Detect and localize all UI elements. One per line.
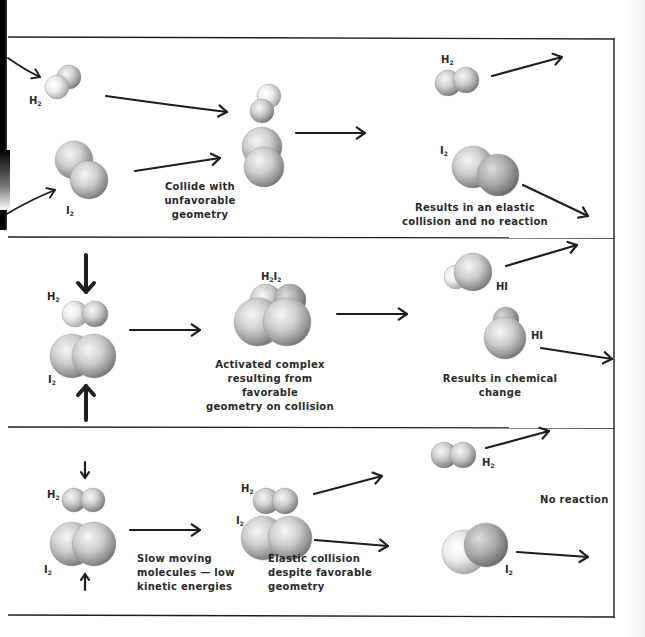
p1-h2-molecule bbox=[45, 65, 81, 99]
p1-incoming-i2-arrow bbox=[5, 188, 55, 215]
panel1-collision-caption: Collide with unfavorable geometry bbox=[140, 180, 260, 222]
p2-complex-atom-4 bbox=[263, 298, 311, 346]
p1-i2-to-collision-arrow bbox=[135, 154, 220, 171]
p3-product-i2-arrow-shaft bbox=[517, 552, 588, 557]
p1-collision-to-result-arrow bbox=[296, 127, 365, 138]
p1-incoming-i2-arrow-shaft bbox=[5, 190, 55, 215]
panel1-i2-label: I2 bbox=[66, 204, 74, 221]
p2-i2-molecule-atom-2 bbox=[72, 334, 116, 378]
panel3-result-caption: No reaction bbox=[540, 493, 620, 507]
molecules bbox=[45, 65, 526, 574]
p3-product-h2-arrow bbox=[486, 428, 549, 448]
p2-up-arrow bbox=[78, 386, 94, 420]
p3-i2-molecule-atom-2 bbox=[72, 522, 116, 566]
p3-product-i2-arrow bbox=[517, 551, 588, 562]
panel3-i2-label: I2 bbox=[44, 563, 52, 580]
p1-i2-to-collision-arrow-shaft bbox=[135, 158, 220, 171]
panel3-complex-h2-label: H2 bbox=[241, 482, 254, 499]
p1-h2-to-collision-arrow-shaft bbox=[106, 96, 227, 112]
panel3-product-h2-label: H2 bbox=[482, 456, 495, 473]
p3-collision-h2-arrow-shaft bbox=[314, 476, 382, 494]
panel2-collision-caption: Activated complex resulting from favorab… bbox=[200, 358, 340, 414]
p1-product-i2-atom-2 bbox=[477, 154, 519, 196]
p1-product-h2 bbox=[435, 67, 479, 96]
p3-collision-i2-arrow-shaft bbox=[315, 540, 388, 546]
panel3-complex-i2-label: I2 bbox=[236, 514, 244, 531]
panel2-h2-label: H2 bbox=[47, 290, 60, 307]
p1-h2-to-collision-arrow bbox=[106, 96, 227, 117]
p2-hi-2-arrow bbox=[541, 348, 612, 363]
p3-collision-molecule-atom-2 bbox=[272, 488, 298, 514]
panel1-h2-label: H2 bbox=[29, 94, 42, 111]
p1-h2-molecule-atom-2 bbox=[45, 75, 69, 99]
p3-product-i2-atom-2 bbox=[464, 523, 508, 567]
p3-i2-molecule bbox=[50, 522, 116, 566]
panel1-2-divider bbox=[8, 237, 614, 238]
p1-i2-molecule-atom-2 bbox=[70, 161, 108, 199]
p3-h2-molecule bbox=[62, 488, 105, 512]
p2-hi-1-arrow bbox=[506, 242, 577, 266]
p2-hi-1 bbox=[444, 253, 492, 291]
p2-hi-2-arrow-shaft bbox=[541, 348, 612, 359]
p2-h2-molecule-atom-2 bbox=[82, 301, 108, 327]
panel1-product-i2-label: I2 bbox=[440, 144, 448, 161]
panel2-result-caption: Results in chemical change bbox=[440, 372, 560, 400]
p3-down-arrow bbox=[81, 462, 89, 478]
p1-incoming-h2-arrow bbox=[8, 58, 40, 78]
panel2-3-divider bbox=[8, 427, 614, 428]
panel3-collision-caption: Elastic collision despite favorable geom… bbox=[268, 552, 378, 594]
p2-hi-2-atom-2 bbox=[484, 317, 526, 359]
panel3-product-i2-label: I2 bbox=[505, 563, 513, 580]
p3-collision-i2-arrow bbox=[315, 540, 388, 551]
p2-to-complex-arrow bbox=[130, 324, 200, 335]
p3-up-arrow bbox=[81, 574, 89, 590]
panel2-complex-label: H2I2 bbox=[261, 270, 281, 287]
p1-product-h2-arrow bbox=[492, 54, 562, 76]
p1-collision-molecule-atom-2 bbox=[250, 99, 274, 123]
p3-product-h2-atom-2 bbox=[450, 442, 476, 468]
p1-collision-molecule bbox=[242, 84, 284, 187]
panel2-product-hi-label-2: HI bbox=[531, 329, 543, 343]
p2-hi-2 bbox=[484, 307, 526, 359]
panel1-top-border bbox=[8, 37, 614, 39]
p3-collision-h2-arrow bbox=[314, 473, 382, 494]
collision-diagram bbox=[0, 0, 645, 637]
p2-h2-molecule bbox=[62, 301, 108, 327]
p1-i2-molecule bbox=[55, 141, 108, 199]
panel3-h2-label: H2 bbox=[47, 488, 60, 505]
p3-product-h2 bbox=[431, 442, 476, 468]
p1-product-h2-arrow-shaft bbox=[492, 57, 562, 76]
panel3-bottom-border bbox=[8, 615, 614, 617]
p2-down-arrow bbox=[78, 255, 94, 292]
panel3-approach-caption: Slow moving molecules — low kinetic ener… bbox=[137, 552, 237, 594]
p1-product-h2-atom-2 bbox=[453, 67, 479, 93]
panel2-i2-label: I2 bbox=[48, 373, 56, 390]
p1-incoming-h2-arrow-shaft bbox=[8, 58, 40, 77]
p2-hi-1-arrow-shaft bbox=[506, 245, 577, 266]
p3-h2-molecule-atom-2 bbox=[81, 488, 105, 512]
p3-to-collision-arrow bbox=[130, 524, 200, 535]
p2-complex bbox=[234, 284, 311, 346]
p2-hi-1-atom-2 bbox=[454, 253, 492, 291]
p1-product-i2 bbox=[452, 146, 519, 196]
p3-product-h2-arrow-shaft bbox=[486, 431, 549, 448]
p2-i2-molecule bbox=[50, 334, 116, 378]
p2-complex-to-result-arrow bbox=[337, 308, 407, 319]
p3-product-i2 bbox=[442, 523, 508, 574]
panel1-result-caption: Results in an elastic collision and no r… bbox=[400, 201, 550, 229]
panel1-product-h2-label: H2 bbox=[441, 53, 454, 70]
panel2-product-hi-label-1: HI bbox=[496, 280, 508, 294]
